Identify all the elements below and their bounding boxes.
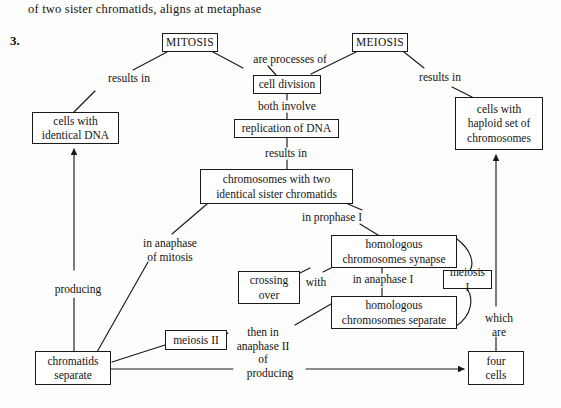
edge-label-results-in-3: results in	[254, 147, 318, 161]
node-synapse: homologous chromosomes synapse	[331, 235, 457, 268]
edge-label-results-in-2: results in	[408, 71, 472, 85]
edge-label-which-are: which are	[477, 312, 521, 339]
concept-map-page: of two sister chromatids, aligns at meta…	[0, 0, 561, 408]
node-chromosomes-two: chromosomes with two identical sister ch…	[200, 169, 353, 204]
node-cells-haploid: cells with haploid set of chromosomes	[455, 97, 543, 150]
edge-label-are-processes: are processes of	[242, 53, 338, 67]
node-replication: replication of DNA	[234, 119, 339, 138]
node-meiosis: MEIOSIS	[352, 33, 408, 52]
edge-label-producing-left: producing	[45, 283, 111, 297]
node-meiosis-i: meiosis I	[443, 270, 492, 289]
node-crossing-over: crossing over	[238, 271, 300, 304]
edge-label-then-in: then in anaphase II of	[229, 326, 297, 367]
node-mitosis: MITOSIS	[162, 33, 218, 52]
edge-label-results-in-1: results in	[97, 72, 161, 86]
node-separate: homologous chromosomes separate	[331, 296, 457, 329]
edge-label-in-anaphase-mit: in anaphase of mitosis	[130, 237, 210, 264]
node-chromatids-sep: chromatids separate	[35, 351, 111, 385]
node-cell-division: cell division	[253, 75, 321, 94]
header-sentence: of two sister chromatids, aligns at meta…	[28, 2, 533, 17]
edge-label-in-anaphase-i: in anaphase I	[340, 273, 426, 287]
edge-label-both-involve: both involve	[249, 100, 325, 114]
edge-label-in-prophase-i: in prophase I	[292, 211, 372, 225]
edge-label-with: with	[300, 276, 332, 290]
question-number: 3.	[10, 33, 20, 49]
edge-label-producing-bot: producing	[237, 367, 303, 381]
node-four-cells: four cells	[468, 351, 524, 385]
node-cells-identical: cells with identical DNA	[32, 112, 119, 144]
node-meiosis-ii: meiosis II	[165, 330, 227, 350]
